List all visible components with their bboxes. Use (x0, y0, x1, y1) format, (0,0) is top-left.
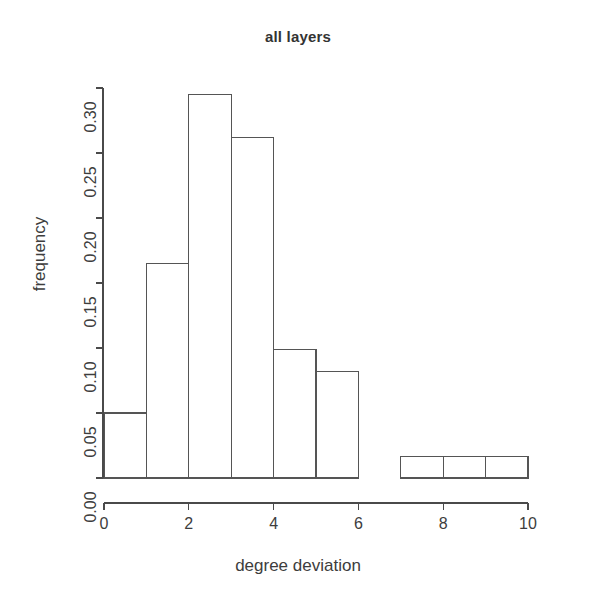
histogram-bar (401, 457, 443, 478)
histogram-bar (146, 264, 188, 479)
bars-group (104, 95, 528, 479)
y-tick-label: 0.25 (82, 152, 100, 212)
histogram-bar (443, 457, 485, 478)
x-tick-label: 6 (338, 515, 378, 533)
y-tick-label: 0.05 (82, 412, 100, 472)
x-tick-label: 10 (508, 515, 548, 533)
y-tick-label: 0.30 (82, 87, 100, 147)
x-tick-label: 8 (423, 515, 463, 533)
histogram-bar (316, 371, 358, 478)
x-tick-label: 4 (254, 515, 294, 533)
histogram-bar (189, 95, 231, 479)
histogram-bar (274, 349, 316, 478)
x-tick-label: 0 (84, 515, 124, 533)
histogram-bar (104, 413, 146, 478)
histogram-bar (486, 457, 528, 478)
y-tick-label: 0.15 (82, 282, 100, 342)
x-axis (104, 503, 528, 510)
histogram-bar (231, 137, 273, 478)
x-tick-label: 2 (169, 515, 209, 533)
histogram-figure: all layers frequency degree deviation 0.… (0, 0, 596, 609)
y-tick-label: 0.10 (82, 347, 100, 407)
y-tick-label: 0.20 (82, 217, 100, 277)
